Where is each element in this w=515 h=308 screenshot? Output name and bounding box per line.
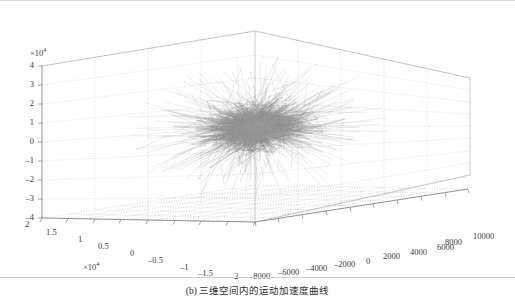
z-tick-label-8: –4 [14,213,34,222]
z-axis-ticks [38,66,42,218]
z-tick-label-4: 0 [16,137,34,146]
x-tick-label-0: 2 [25,220,29,229]
chart-figure: ×104 4 3 2 1 0 –1 –2 –3 –4 2 1.5 1 0.5 0… [0,0,515,278]
x-tick-label-4: 0 [130,249,134,258]
figure-page: ×104 4 3 2 1 0 –1 –2 –3 –4 2 1.5 1 0.5 0… [0,0,515,308]
z-axis-exponent: ×104 [30,49,46,58]
z-tick-label-3: 1 [16,118,34,127]
x-tick-label-2: 1 [78,235,82,244]
x-tick-label-5: –0.5 [148,256,163,265]
x-tick-label-1: 1.5 [46,228,57,237]
z-tick-label-0: 4 [16,61,34,70]
y-tick-label-1: –6000 [278,268,299,277]
x-axis-exponent: ×104 [83,263,99,272]
y-axis-line [255,189,468,222]
page-bottom-divider [0,277,515,278]
y-tick-label-2: –4000 [306,264,327,273]
y-tick-label-3: –2000 [334,260,355,269]
y-tick-label-6: 4000 [410,248,427,257]
z-tick-label-5: –1 [14,156,34,165]
x-tick-label-6: –1 [180,263,189,272]
y-tick-label-9: 10000 [473,232,494,241]
z-tick-label-1: 3 [16,80,34,89]
y-tick-label-4: 0 [366,257,370,266]
z-tick-label-2: 2 [16,99,34,108]
z-tick-label-6: –2 [14,175,34,184]
figure-caption: (b) 三维空间内的运动加速度曲线 [0,283,515,297]
x-axis-ticks [40,218,255,226]
y-tick-label-8: 8000 [445,238,462,247]
x-axis-line [42,218,255,222]
x-tick-label-3: 0.5 [98,242,109,251]
y-tick-label-5: 2000 [383,252,400,261]
data-cloud [127,55,387,197]
z-tick-label-7: –3 [14,194,34,203]
